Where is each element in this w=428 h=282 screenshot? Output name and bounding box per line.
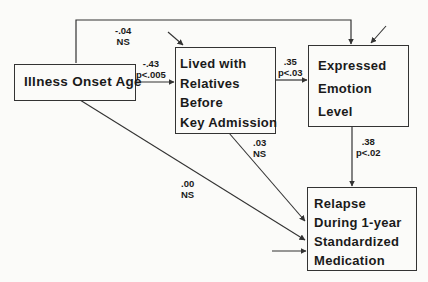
coef-sig: NS <box>253 148 266 159</box>
node-relapse: Relapse During 1-year Standardized Medic… <box>307 187 417 271</box>
coef-sig: p<.02 <box>356 147 381 158</box>
node-label: Level <box>318 100 408 123</box>
node-label: Expressed <box>318 54 408 77</box>
residual-arrow-ee <box>371 26 386 43</box>
coef-sig: NS <box>115 36 131 47</box>
coef-sig: p<.03 <box>278 67 303 78</box>
node-label: Key Admission <box>180 113 275 133</box>
coef-sig: p<.005 <box>136 69 166 80</box>
node-lived-with-relatives: Lived with Relatives Before Key Admissio… <box>175 47 276 134</box>
coef-value: -.43 <box>136 58 166 69</box>
path-diagram: Illness Onset Age Lived with Relatives B… <box>0 0 428 282</box>
node-label: Standardized <box>314 232 416 251</box>
node-label: Before <box>180 93 275 113</box>
coef-value: .35 <box>278 56 303 67</box>
coef-relatives-relapse: .03 NS <box>253 137 266 159</box>
node-expressed-emotion-level: Expressed Emotion Level <box>308 45 409 127</box>
coef-onset-ee: -.04 NS <box>115 25 131 47</box>
coef-value: .03 <box>253 137 266 148</box>
node-label: During 1-year <box>314 213 416 232</box>
coef-ee-relapse: .38 p<.02 <box>356 136 381 158</box>
node-label: Lived with <box>180 54 275 74</box>
coef-sig: NS <box>181 189 194 200</box>
path-relatives-to-relapse <box>229 133 305 221</box>
node-label: Relapse <box>314 194 416 213</box>
coef-onset-relatives: -.43 p<.005 <box>136 58 166 80</box>
coef-onset-relapse: .00 NS <box>181 178 194 200</box>
node-illness-onset-age: Illness Onset Age <box>14 64 136 101</box>
node-label: Emotion <box>318 77 408 100</box>
coef-relatives-ee: .35 p<.03 <box>278 56 303 78</box>
node-label: Relatives <box>180 74 275 94</box>
coef-value: -.04 <box>115 25 131 36</box>
node-label: Medication <box>314 251 416 270</box>
coef-value: .38 <box>356 136 381 147</box>
node-label: Illness Onset Age <box>24 74 135 89</box>
coef-value: .00 <box>181 178 194 189</box>
residual-arrow-relatives <box>168 32 183 45</box>
